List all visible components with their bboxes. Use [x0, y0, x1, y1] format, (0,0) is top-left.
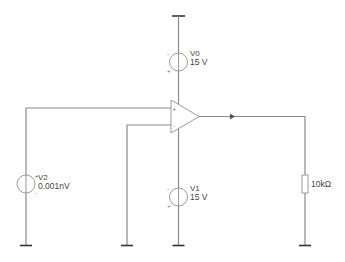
- v0-plus-sign: +: [167, 68, 171, 74]
- wire-plus-input-to-v2: [26, 108, 171, 175]
- v1-minus-sign: -: [167, 186, 169, 192]
- v0-minus-sign: -: [167, 51, 169, 57]
- v1-value: 15 V: [190, 192, 208, 202]
- v0-value: 15 V: [190, 57, 208, 67]
- wire-output-to-load: [199, 117, 305, 176]
- circuit-schematic: - + V0 15 V + - 10kΩ - + V1 15 V + -: [0, 0, 345, 262]
- opamp-plus-input: +: [173, 106, 177, 112]
- v2-minus-sign: -: [35, 190, 37, 196]
- wire-minus-input-to-ground: [127, 125, 171, 245]
- resistor-r1[interactable]: 10kΩ: [302, 175, 331, 193]
- v2-value: 0.001nV: [38, 181, 70, 191]
- opamp[interactable]: + -: [171, 100, 199, 133]
- voltage-source-v2[interactable]: + - V2 0.001nV: [17, 173, 70, 196]
- current-arrow-icon: [230, 114, 235, 120]
- opamp-minus-input: -: [173, 123, 175, 129]
- voltage-source-v1[interactable]: - + V1 15 V: [167, 184, 208, 209]
- opamp-triangle-icon: [171, 100, 199, 133]
- voltage-source-v0[interactable]: - + V0 15 V: [167, 49, 208, 74]
- resistor-icon: [302, 175, 308, 193]
- v1-plus-sign: +: [167, 203, 171, 209]
- resistor-value: 10kΩ: [311, 179, 331, 189]
